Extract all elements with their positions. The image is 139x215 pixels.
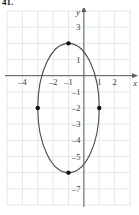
problem-number: 41. xyxy=(2,0,13,7)
grid-lines xyxy=(7,11,130,205)
data-point-bottom-vertex xyxy=(66,170,70,174)
x-axis-tick-labels: –4–2–112 xyxy=(17,77,117,87)
y-tick-label: –5 xyxy=(71,152,81,162)
x-tick-label: –2 xyxy=(48,77,58,87)
x-tick-label: 2 xyxy=(113,77,117,87)
y-tick-label: –7 xyxy=(71,184,81,194)
y-tick-label: –4 xyxy=(71,135,81,145)
data-point-top-vertex xyxy=(66,41,70,45)
x-tick-label: –1 xyxy=(63,77,73,87)
y-tick-label: 1 xyxy=(76,55,80,65)
y-tick-label: –1 xyxy=(71,87,81,97)
data-point-left-covertex xyxy=(36,106,40,110)
x-tick-label: –4 xyxy=(17,77,27,87)
coordinate-plot: –4–2–112 31–1–2–3–4–5–7 x y xyxy=(0,8,139,215)
data-point-right-covertex xyxy=(97,106,101,110)
plot-svg: –4–2–112 31–1–2–3–4–5–7 x y xyxy=(0,8,139,215)
y-tick-label: –3 xyxy=(71,119,81,129)
y-tick-label: –2 xyxy=(71,103,81,113)
y-axis-label: y xyxy=(75,8,80,17)
math-figure: 41. –4–2–112 31–1–2–3–4–5–7 x y xyxy=(0,0,139,215)
y-tick-label: 3 xyxy=(76,22,80,32)
x-tick-label: 1 xyxy=(97,77,101,87)
x-axis-label: x xyxy=(132,78,137,88)
